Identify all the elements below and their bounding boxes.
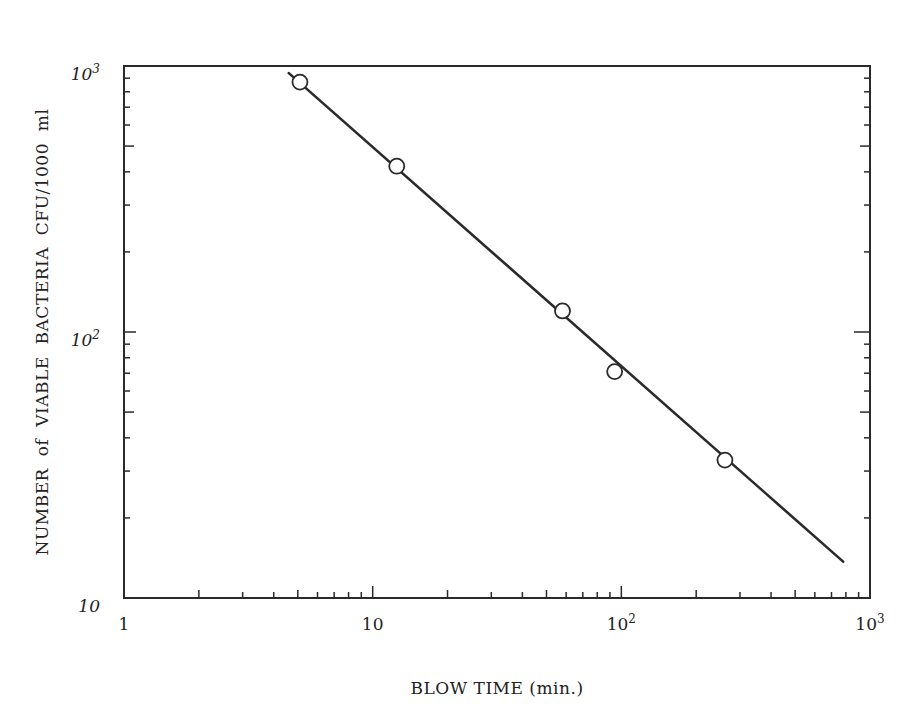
- data-point: [389, 159, 404, 174]
- x-tick-label: 10: [362, 614, 384, 634]
- y-tick-label: 102: [71, 328, 100, 350]
- plot-frame: [124, 66, 870, 598]
- x-tick-label: 1: [119, 614, 130, 634]
- data-point: [555, 303, 570, 318]
- y-axis-tick-labels: 10102103: [71, 62, 101, 616]
- x-axis-tick-labels: 110102103: [119, 612, 885, 634]
- axis-ticks: [124, 78, 870, 598]
- x-tick-label: 102: [607, 612, 636, 634]
- y-axis-title: NUMBER of VIABLE BACTERIA CFU/1000 ml: [32, 109, 52, 556]
- y-tick-label: 103: [71, 62, 101, 84]
- x-tick-label: 103: [855, 612, 884, 634]
- data-point: [607, 364, 622, 379]
- log-log-chart: 110102103 10102103 BLOW TIME (min.) NUMB…: [0, 0, 909, 708]
- x-axis-title: BLOW TIME (min.): [410, 678, 583, 698]
- y-tick-label: 10: [78, 596, 100, 616]
- data-point: [717, 453, 732, 468]
- data-point: [292, 75, 307, 90]
